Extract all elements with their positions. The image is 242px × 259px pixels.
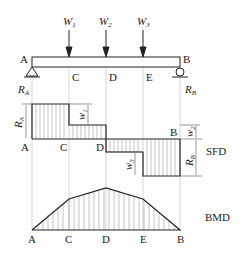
bmd-label-a: A xyxy=(28,233,36,245)
bmd-title: BMD xyxy=(205,211,230,223)
sfd-label-a: A xyxy=(21,141,29,153)
beam-label-b: B xyxy=(183,53,190,65)
beam xyxy=(32,57,180,67)
roller-support-icon xyxy=(172,68,188,77)
sfd-w3-label: w3 xyxy=(122,159,136,170)
bmd-label-e: E xyxy=(140,233,147,245)
beam-label-d: D xyxy=(109,71,117,83)
bmd-label-c: C xyxy=(65,233,72,245)
bmd-label-d: D xyxy=(102,233,110,245)
sfd-w1-label: w1 xyxy=(75,109,89,120)
sfd-label-d: D xyxy=(96,141,104,153)
load-arrows xyxy=(66,30,146,57)
load-w1-label: W1 xyxy=(63,15,76,29)
load-w3-label: W3 xyxy=(137,15,150,29)
reaction-ra-label: RA xyxy=(17,83,30,97)
sfd-ra-label: RA xyxy=(12,116,26,129)
sfd-label-c: C xyxy=(60,141,67,153)
sfd-title: SFD xyxy=(206,145,226,157)
beam-label-e: E xyxy=(146,71,153,83)
reaction-rb-label: RB xyxy=(184,83,197,97)
load-w2-label: W2 xyxy=(99,15,112,29)
sfd-label-b: B xyxy=(170,126,177,138)
sfd-w2-label: w2 xyxy=(183,126,197,137)
beam-label-c: C xyxy=(72,71,79,83)
pin-support-icon xyxy=(24,67,40,77)
beam-diagram: W1 W2 W3 A C D E B RA RB RA w xyxy=(0,0,242,259)
beam-label-a: A xyxy=(20,53,28,65)
sfd-rb-label: RB xyxy=(183,154,197,167)
bmd-label-b: B xyxy=(177,233,184,245)
